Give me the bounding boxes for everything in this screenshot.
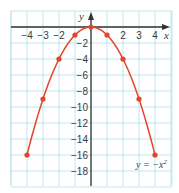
x-tick-label: −3 [37,30,49,41]
data-point [152,152,157,157]
data-point [88,24,93,29]
y-axis-label: y [78,10,84,22]
y-tick-label: −6 [77,70,89,81]
y-tick-label: −14 [71,134,88,145]
equation-text: y = −x [135,159,164,170]
data-point [120,56,125,61]
x-tick-label: 3 [136,30,142,41]
x-tick-label: −4 [21,30,33,41]
equation-exponent: 2 [163,158,167,166]
data-point [40,96,45,101]
equation-label: y = −x2 [135,158,167,170]
y-tick-label: −18 [71,166,88,177]
data-point [136,96,141,101]
y-tick-label: −10 [71,102,88,113]
data-point [104,32,109,37]
y-tick-label: −8 [77,86,89,97]
data-point [24,152,29,157]
data-point [72,32,77,37]
x-tick-label: −2 [53,30,65,41]
x-tick-label: 4 [152,30,158,41]
x-axis-label: x [163,29,169,41]
y-axis-arrow-icon [88,12,94,20]
data-point [56,56,61,61]
parabola-chart: −4−3−2234−2−4−6−8−10−12−14−16−18 x y y =… [0,0,179,193]
y-tick-label: −2 [77,38,89,49]
y-tick-label: −16 [71,150,88,161]
y-tick-label: −12 [71,118,88,129]
x-tick-label: 2 [120,30,126,41]
y-tick-label: −4 [77,54,89,65]
